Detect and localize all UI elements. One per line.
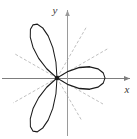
y-axis-arrowhead — [65, 10, 70, 16]
polar-rose-figure: y x — [0, 0, 137, 139]
plot-canvas: y x — [0, 0, 137, 139]
origin-marker-group — [55, 76, 60, 81]
origin-dot — [55, 76, 60, 81]
tangent-line-150deg — [15, 54, 57, 78]
tangent-line-210deg — [13, 78, 57, 103]
y-axis-label: y — [52, 4, 58, 16]
x-axis-arrowhead — [124, 76, 130, 81]
x-axis-label: x — [124, 83, 130, 95]
tangent-line-270deg — [57, 78, 82, 121]
tangent-lines-group — [13, 26, 109, 121]
